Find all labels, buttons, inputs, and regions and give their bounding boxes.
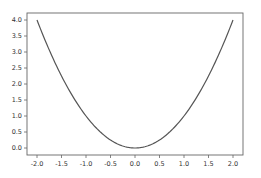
x-tick-label: -1.5 (55, 160, 68, 168)
chart: -2.0-1.5-1.0-0.50.00.51.01.52.0 0.00.51.… (0, 0, 261, 178)
x-tick-label: 1.0 (179, 160, 189, 168)
x-tick-label: -1.0 (80, 160, 93, 168)
x-tick-label: 1.5 (203, 160, 213, 168)
y-tick-label: 0.0 (12, 144, 22, 152)
x-tick-label: -2.0 (31, 160, 44, 168)
x-tick-label: 0.5 (154, 160, 164, 168)
y-axis: 0.00.51.01.52.02.53.03.54.0 (12, 16, 27, 152)
x-tick-label: -0.5 (104, 160, 117, 168)
y-tick-label: 4.0 (12, 16, 22, 24)
y-tick-label: 0.5 (12, 128, 22, 136)
plot-frame (27, 13, 243, 155)
y-tick-label: 2.5 (12, 64, 22, 72)
x-tick-label: 0.0 (130, 160, 140, 168)
y-tick-label: 1.5 (12, 96, 22, 104)
y-tick-label: 1.0 (12, 112, 22, 120)
y-tick-label: 2.0 (12, 80, 22, 88)
x-tick-label: 2.0 (228, 160, 238, 168)
y-tick-label: 3.5 (12, 32, 22, 40)
x-axis: -2.0-1.5-1.0-0.50.00.51.01.52.0 (31, 155, 239, 168)
y-tick-label: 3.0 (12, 48, 22, 56)
